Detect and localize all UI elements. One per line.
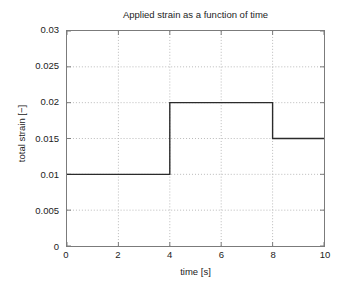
x-tick-label: 6 bbox=[219, 249, 224, 260]
x-tick-label: 10 bbox=[320, 249, 331, 260]
y-tick-label: 0.03 bbox=[41, 25, 60, 35]
figure-canvas: Applied strain as a function of time 00.… bbox=[0, 0, 341, 295]
x-tick-label: 4 bbox=[167, 249, 172, 260]
plot-area bbox=[66, 30, 325, 247]
y-tick-label: 0.005 bbox=[35, 206, 59, 216]
y-tick-label: 0.01 bbox=[41, 170, 60, 180]
x-axis-label: time [s] bbox=[66, 266, 325, 277]
chart-title: Applied strain as a function of time bbox=[66, 9, 325, 21]
y-tick-label: 0.02 bbox=[41, 97, 60, 107]
data-series-line bbox=[67, 31, 324, 246]
y-tick-label: 0 bbox=[54, 242, 59, 252]
y-tick-label: 0.015 bbox=[35, 134, 59, 144]
x-tick-label: 2 bbox=[115, 249, 120, 260]
y-tick-label: 0.025 bbox=[35, 61, 59, 71]
x-tick-label: 8 bbox=[271, 249, 276, 260]
x-tick-label: 0 bbox=[63, 249, 68, 260]
y-axis-label: total strain [−] bbox=[16, 79, 27, 189]
